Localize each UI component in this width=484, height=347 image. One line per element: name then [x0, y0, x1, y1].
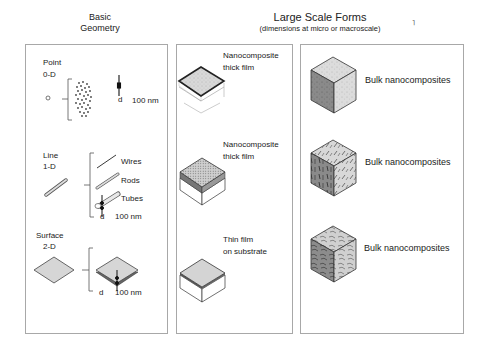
basic-geometry-header-line2: Geometry	[70, 23, 130, 34]
basic-geometry-panel: Point 0-D d 100 nm Line 1-D Wires Rods T…	[25, 44, 168, 334]
basic-geometry-header-line1: Basic	[70, 12, 130, 23]
nanoparticle-cluster-icon	[75, 81, 92, 117]
thick-film-substrate-icon	[180, 158, 225, 205]
films-panel: Nanocomposite thick film Nanocomposite t…	[176, 44, 293, 334]
bulk-platelet-cube-icon	[311, 226, 356, 282]
point-dimension-arrow-icon	[118, 75, 121, 96]
tube-icon	[95, 194, 118, 209]
thick-film-freestanding-icon	[179, 67, 224, 113]
basic-geometry-header: Basic Geometry	[70, 12, 130, 34]
large-scale-subtitle: (dimensions at micro or macroscale)	[230, 24, 410, 33]
large-scale-title: Large Scale Forms	[230, 11, 410, 24]
line-bracket-icon	[84, 153, 94, 217]
point-dot-icon	[46, 96, 50, 100]
bulk-panel: Bulk nanocomposites Bulk nanocomposites …	[300, 44, 464, 334]
rod-icon	[97, 174, 118, 188]
bulk-drawings	[301, 45, 465, 335]
bulk-particle-cube-icon	[311, 57, 356, 113]
surface-sheet-icon	[34, 257, 74, 283]
surface-bracket-icon	[82, 248, 93, 291]
bulk-rod-cube-icon	[311, 140, 356, 196]
line-rod-icon	[46, 180, 66, 195]
basic-geometry-drawings	[26, 45, 169, 335]
wire-icon	[97, 155, 116, 168]
films-drawings	[177, 45, 294, 335]
stray-mark-icon: ˥	[412, 18, 415, 27]
thin-film-substrate-icon	[180, 259, 225, 302]
large-scale-header: Large Scale Forms (dimensions at micro o…	[230, 11, 410, 33]
point-bracket-icon	[62, 79, 72, 120]
